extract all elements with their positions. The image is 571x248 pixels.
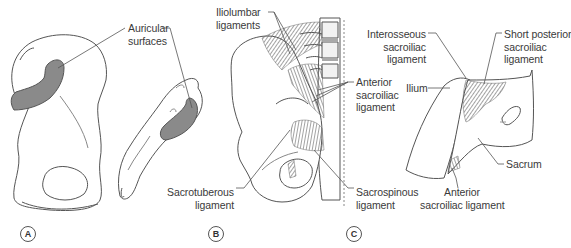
panel-a-sacrum <box>118 78 202 199</box>
label-anterior-sacroiliac-ligament-c: Anterior sacroiliac ligament <box>420 186 504 211</box>
panel-tag-b: B <box>208 226 224 242</box>
label-interosseous-sacroiliac-ligament: Interosseous sacroiliac ligament <box>360 28 426 66</box>
label-iliolumbar-ligaments: Iliolumbar ligaments <box>216 6 261 31</box>
label-sacrum: Sacrum <box>506 158 542 171</box>
label-sacrospinous-ligament: Sacrospinous ligament <box>356 186 418 211</box>
label-anterior-sacroiliac-ligament-b: Anterior sacroiliac ligament <box>356 76 399 114</box>
sacrotuberous-ligament-fibers <box>291 120 324 151</box>
panel-tag-c: C <box>346 226 362 242</box>
label-ilium: Ilium <box>406 82 428 95</box>
label-auricular-surfaces: Auricular surfaces <box>128 22 169 47</box>
panel-tag-a: A <box>20 226 36 242</box>
label-short-posterior-sacroiliac-ligament: Short posterior sacroiliac ligament <box>504 28 571 66</box>
label-sacrotuberous-ligament: Sacrotuberous ligament <box>160 186 234 211</box>
